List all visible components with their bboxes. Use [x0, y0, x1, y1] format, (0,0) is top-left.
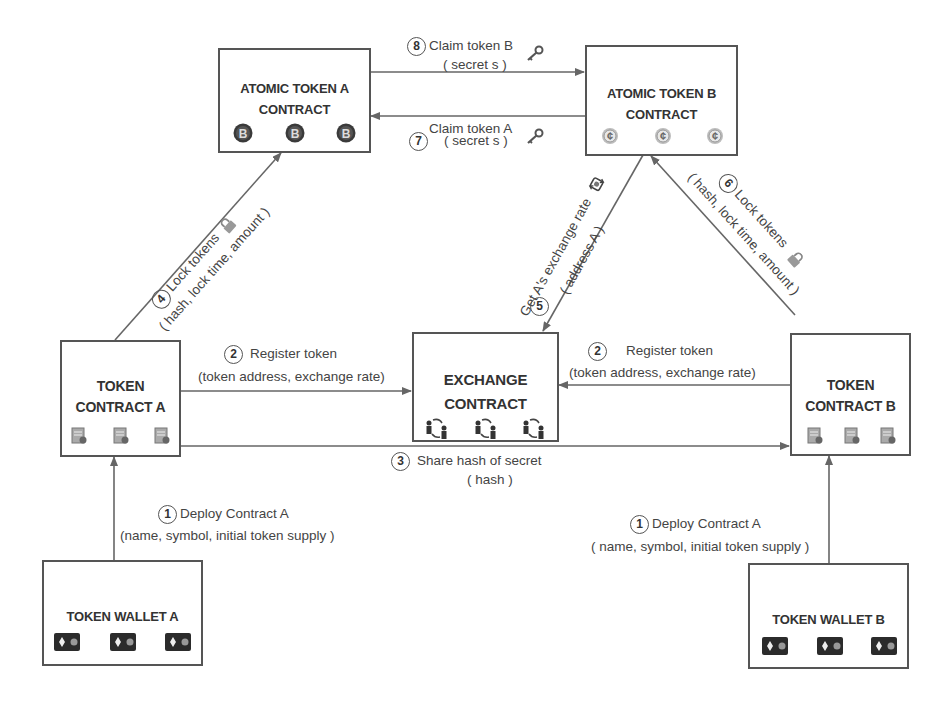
- wallet-icon: [110, 633, 136, 651]
- edge-label-1b: 1Deploy Contract A: [630, 515, 761, 534]
- cent-coin-icon: ¢: [601, 127, 619, 145]
- diagram-canvas: ATOMIC TOKEN A CONTRACT B B B ATOMIC TOK…: [0, 0, 952, 701]
- edge-params-7: 7( secret s ): [409, 132, 508, 151]
- edge-label-text: Deploy Contract A: [652, 516, 761, 531]
- atomic-token-b-contract[interactable]: ATOMIC TOKEN B CONTRACT ¢ ¢ ¢: [585, 45, 738, 156]
- edge-label-8: 8Claim token B: [407, 37, 513, 56]
- bitcoin-coin-icon: B: [336, 123, 356, 143]
- node-title-line1: EXCHANGE: [414, 368, 557, 392]
- node-title-line2: CONTRACT A: [62, 397, 179, 418]
- cent-coin-icon: ¢: [706, 127, 724, 145]
- people-exchange-icon: [473, 417, 499, 439]
- edge-params-3: ( hash ): [467, 471, 513, 488]
- node-title-line1: TOKEN: [62, 376, 179, 397]
- bitcoin-coin-icon: B: [233, 123, 253, 143]
- edge-params-2a: (token address, exchange rate): [198, 368, 385, 385]
- node-title-line2: CONTRACT: [220, 99, 369, 120]
- step-badge: 3: [391, 452, 410, 471]
- people-exchange-icon: [521, 417, 547, 439]
- wallet-icon: [762, 637, 788, 655]
- contract-document-icon: [70, 427, 88, 445]
- svg-text:¢: ¢: [607, 130, 613, 142]
- edge-label-1a: 1Deploy Contract A: [158, 505, 289, 524]
- step-badge: 7: [409, 132, 428, 151]
- step-badge: 8: [407, 37, 426, 56]
- step-badge: 2: [224, 345, 243, 364]
- wallet-icon: [817, 637, 843, 655]
- contract-document-icon: [153, 427, 171, 445]
- svg-text:¢: ¢: [712, 130, 718, 142]
- wallet-icon: [54, 633, 80, 651]
- edge-params-text: ( secret s ): [444, 133, 508, 148]
- step-badge: 2: [588, 342, 607, 361]
- cent-coin-icon: ¢: [654, 127, 672, 145]
- node-title-line2: CONTRACT: [587, 104, 736, 125]
- people-exchange-icon: [424, 417, 450, 439]
- svg-text:¢: ¢: [659, 130, 665, 142]
- edge-label-2b: 2Register token: [588, 342, 713, 361]
- svg-text:B: B: [342, 127, 351, 141]
- edge-label-text: Register token: [250, 346, 337, 361]
- step-badge-5: 5: [530, 297, 549, 316]
- edge-params-1a: (name, symbol, initial token supply ): [120, 527, 335, 544]
- contract-document-icon: [112, 427, 130, 445]
- node-title-line1: ATOMIC TOKEN A: [220, 78, 369, 99]
- node-title: TOKEN WALLET B: [750, 609, 907, 630]
- atomic-token-a-contract[interactable]: ATOMIC TOKEN A CONTRACT B B B: [218, 48, 371, 153]
- key-icon: [525, 127, 545, 145]
- wallet-icon: [165, 633, 191, 651]
- edge-params-8: ( secret s ): [443, 56, 507, 73]
- node-title-line2: CONTRACT: [414, 392, 557, 416]
- node-title: TOKEN WALLET A: [44, 606, 201, 627]
- node-title-line1: ATOMIC TOKEN B: [587, 83, 736, 104]
- contract-document-icon: [806, 427, 824, 445]
- node-title-line2: CONTRACT B: [792, 396, 909, 417]
- bitcoin-coin-icon: B: [285, 123, 305, 143]
- contract-document-icon: [843, 427, 861, 445]
- edge-params-1b: ( name, symbol, initial token supply ): [591, 538, 809, 555]
- token-contract-a[interactable]: TOKEN CONTRACT A: [60, 340, 181, 457]
- token-contract-b[interactable]: TOKEN CONTRACT B: [790, 333, 911, 456]
- token-wallet-b[interactable]: TOKEN WALLET B: [748, 563, 909, 669]
- edge-label-2a: 2Register token: [224, 345, 337, 364]
- edge-label-text: Deploy Contract A: [180, 506, 289, 521]
- edge-label-text: Register token: [626, 343, 713, 358]
- key-icon: [525, 44, 545, 62]
- step-badge: 1: [158, 505, 177, 524]
- edge-label-3: 3Share hash of secret: [391, 452, 542, 471]
- wallet-icon: [871, 637, 897, 655]
- svg-text:B: B: [239, 127, 248, 141]
- node-title-line1: TOKEN: [792, 375, 909, 396]
- edge-params-2b: (token address, exchange rate): [569, 364, 756, 381]
- contract-document-icon: [879, 427, 897, 445]
- exchange-contract[interactable]: EXCHANGE CONTRACT: [412, 332, 559, 442]
- edge-label-text: Claim token B: [429, 38, 513, 53]
- step-badge: 1: [630, 515, 649, 534]
- edge-label-text: Share hash of secret: [417, 453, 542, 468]
- svg-text:B: B: [290, 127, 299, 141]
- token-wallet-a[interactable]: TOKEN WALLET A: [42, 560, 203, 666]
